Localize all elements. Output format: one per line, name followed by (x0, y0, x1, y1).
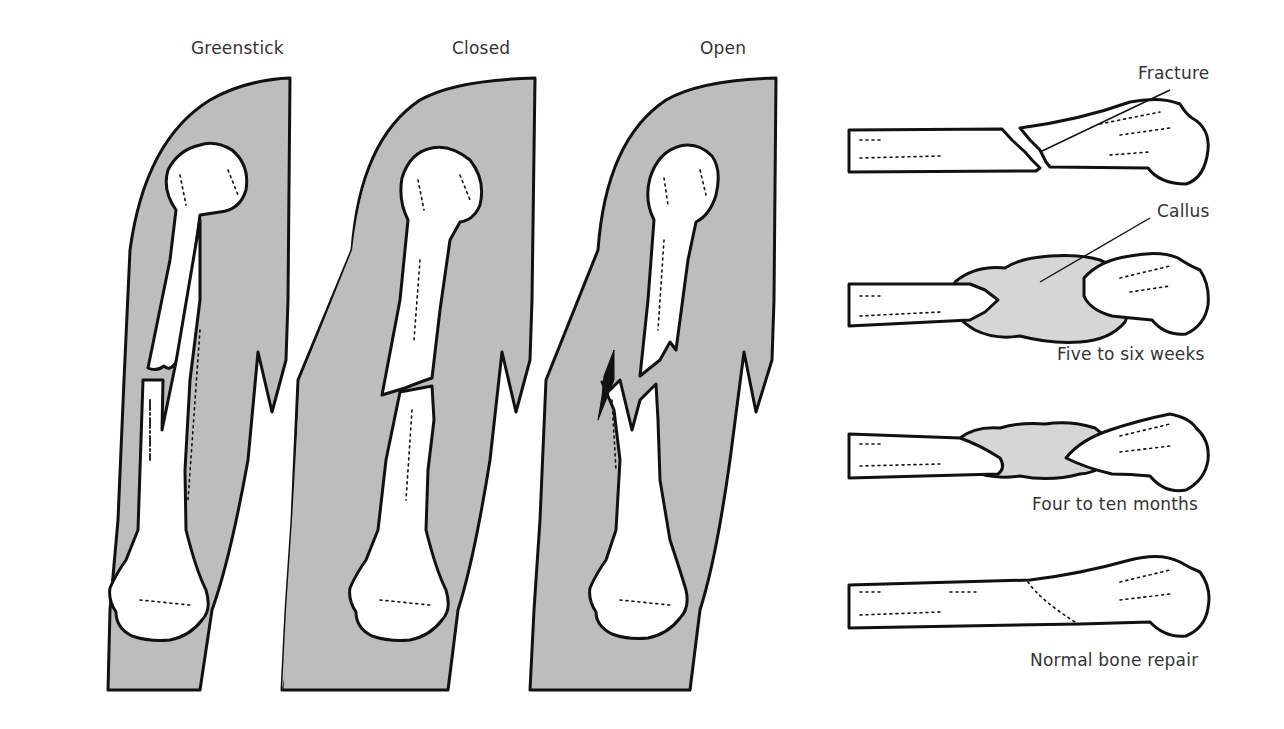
stage-normal-bone-repair (849, 556, 1209, 636)
closed-panel (282, 78, 535, 690)
stage-fracture (849, 90, 1208, 184)
label-four-to-ten-months: Four to ten months (1032, 496, 1198, 513)
label-five-to-six-weeks: Five to six weeks (1057, 346, 1205, 363)
greenstick-panel (108, 78, 290, 690)
open-panel (530, 78, 776, 690)
label-callus: Callus (1157, 203, 1210, 220)
stage-five-to-six-weeks (849, 218, 1208, 342)
label-fracture: Fracture (1138, 65, 1209, 82)
title-greenstick: Greenstick (191, 40, 284, 57)
fracture-right-shaft (1020, 99, 1208, 184)
repaired-bone (849, 556, 1209, 636)
stage-four-to-ten-months (849, 414, 1208, 491)
bone-fracture-diagram (0, 0, 1284, 729)
label-normal-bone-repair: Normal bone repair (1030, 652, 1198, 669)
title-closed: Closed (452, 40, 510, 57)
title-open: Open (700, 40, 746, 57)
fracture-left-shaft (849, 129, 1040, 172)
